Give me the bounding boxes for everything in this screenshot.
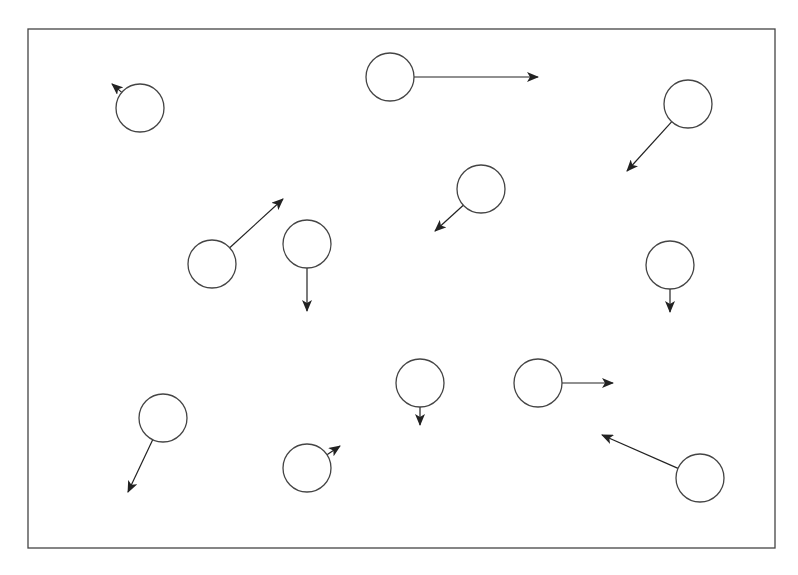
particle-diagram bbox=[0, 0, 798, 575]
particle bbox=[366, 53, 538, 101]
particle-circle bbox=[676, 454, 724, 502]
velocity-arrow-icon bbox=[230, 199, 283, 248]
particle-circle bbox=[646, 241, 694, 289]
velocity-arrow-icon bbox=[627, 122, 672, 171]
particle bbox=[188, 199, 283, 288]
particle-circle bbox=[514, 359, 562, 407]
particle bbox=[646, 241, 694, 312]
particle bbox=[283, 444, 340, 492]
particles-group bbox=[112, 53, 724, 502]
velocity-arrow-icon bbox=[602, 435, 678, 468]
particle-circle bbox=[664, 80, 712, 128]
particle bbox=[602, 435, 724, 502]
particle-circle bbox=[116, 84, 164, 132]
velocity-arrow-icon bbox=[327, 446, 340, 455]
particle-circle bbox=[396, 359, 444, 407]
particle-circle bbox=[139, 394, 187, 442]
diagram-canvas bbox=[0, 0, 798, 575]
particle bbox=[514, 359, 613, 407]
particle-circle bbox=[188, 240, 236, 288]
velocity-arrow-icon bbox=[435, 205, 463, 231]
particle bbox=[112, 84, 164, 132]
particle-circle bbox=[283, 444, 331, 492]
particle-circle bbox=[457, 165, 505, 213]
velocity-arrow-icon bbox=[128, 440, 153, 492]
particle bbox=[283, 220, 331, 311]
particle-circle bbox=[366, 53, 414, 101]
particle bbox=[396, 359, 444, 425]
particle bbox=[128, 394, 187, 492]
particle bbox=[435, 165, 505, 231]
particle bbox=[627, 80, 712, 171]
velocity-arrow-icon bbox=[112, 84, 122, 92]
particle-circle bbox=[283, 220, 331, 268]
